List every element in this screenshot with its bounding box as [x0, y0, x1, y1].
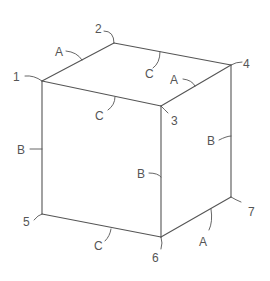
edge-6-7	[161, 197, 231, 237]
vertex-1-label: 1	[13, 70, 20, 84]
edge-1-2	[42, 43, 114, 81]
edge-6-7-leader	[209, 209, 212, 230]
vertex-1-leader	[25, 76, 42, 81]
vertex-6-label: 6	[152, 251, 159, 265]
edge-3-6-leader	[149, 173, 161, 177]
vertex-7-leader	[231, 197, 241, 202]
edge-1-2-leader	[66, 51, 82, 60]
vertex-3-leader	[161, 106, 168, 113]
vertex-4-leader	[231, 62, 242, 65]
edge-1-3-label: C	[95, 109, 104, 123]
edge-5-6-leader	[105, 229, 111, 241]
edge-1-3-leader	[108, 97, 115, 110]
edge-6-7-label: A	[199, 235, 207, 249]
edge-2-4-label: C	[145, 67, 154, 81]
edge-2-4	[114, 43, 231, 65]
vertex-2-label: 2	[95, 22, 102, 36]
box-diagram: 1 2 3 4 5 6 7 A C A C B B B C A	[0, 0, 270, 281]
vertex-6-leader	[161, 237, 162, 249]
vertex-7-label: 7	[248, 205, 255, 219]
vertex-4-label: 4	[243, 57, 250, 71]
edge-3-6-label: B	[137, 167, 145, 181]
edge-5-6	[42, 214, 161, 237]
edge-1-2-label: A	[55, 45, 63, 59]
vertex-2-leader	[104, 31, 114, 43]
edge-4-7-leader	[219, 136, 231, 140]
edge-3-4-label: A	[170, 73, 178, 87]
edge-5-6-label: C	[94, 239, 103, 253]
edge-3-4-leader	[183, 79, 195, 86]
edge-1-3	[42, 81, 161, 106]
edge-2-4-leader	[153, 52, 160, 68]
vertex-3-label: 3	[171, 114, 178, 128]
edge-4-7-label: B	[207, 134, 215, 148]
vertex-5-leader	[34, 214, 42, 220]
edge-1-5-label: B	[17, 143, 25, 157]
vertex-5-label: 5	[23, 215, 30, 229]
